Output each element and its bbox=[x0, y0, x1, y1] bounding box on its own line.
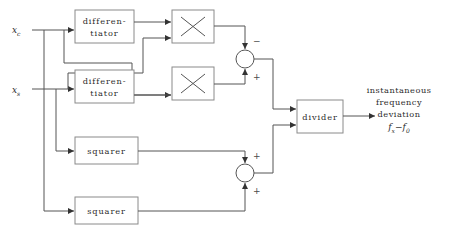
differentiator-bottom-box[interactable] bbox=[75, 70, 134, 103]
differentiator-bottom-label-line1: differen- bbox=[83, 76, 127, 86]
wire-squarer-bottom-to-sum-bottom bbox=[138, 183, 245, 211]
wire-multiplier-bottom-to-sum-top bbox=[214, 69, 245, 84]
differentiator-top-box[interactable] bbox=[75, 10, 134, 43]
figure-root: xc xs differen- tiator differen- tiator bbox=[0, 0, 449, 234]
wire-squarer-top-to-sum-bottom bbox=[138, 151, 245, 163]
divider-label: divider bbox=[302, 112, 337, 122]
wire-sum-bottom-to-divider bbox=[254, 125, 296, 173]
wire-sum-top-to-divider bbox=[254, 59, 296, 109]
differentiator-top-label-line1: differen- bbox=[83, 16, 127, 26]
differentiator-top-label-line2: tiator bbox=[90, 28, 118, 38]
output-label-line2: frequency bbox=[376, 97, 422, 107]
summing-junction-top[interactable] bbox=[236, 50, 254, 68]
squarer-top-label: squarer bbox=[87, 146, 126, 156]
sum-top-sign-lower: + bbox=[253, 72, 261, 82]
output-label-line3: deviation bbox=[378, 109, 421, 119]
input-label-xs: xs bbox=[12, 85, 20, 97]
differentiator-bottom-label-line2: tiator bbox=[90, 88, 118, 98]
wire-xc-to-bottom-squarer bbox=[44, 30, 74, 211]
wire-multiplier-top-to-sum-top bbox=[214, 26, 245, 49]
output-label-line1: instantaneous bbox=[367, 85, 432, 95]
summing-junction-bottom[interactable] bbox=[236, 164, 254, 182]
sum-top-sign-upper: − bbox=[253, 36, 261, 46]
sum-bottom-sign-upper: + bbox=[253, 151, 261, 161]
wire-xs-to-top-squarer bbox=[56, 89, 74, 151]
input-label-xc: xc bbox=[12, 25, 21, 37]
sum-bottom-sign-lower: + bbox=[253, 186, 261, 196]
output-formula: fx−f0 bbox=[387, 122, 410, 134]
block-diagram: xc xs differen- tiator differen- tiator bbox=[0, 0, 449, 234]
squarer-bottom-label: squarer bbox=[87, 206, 126, 216]
